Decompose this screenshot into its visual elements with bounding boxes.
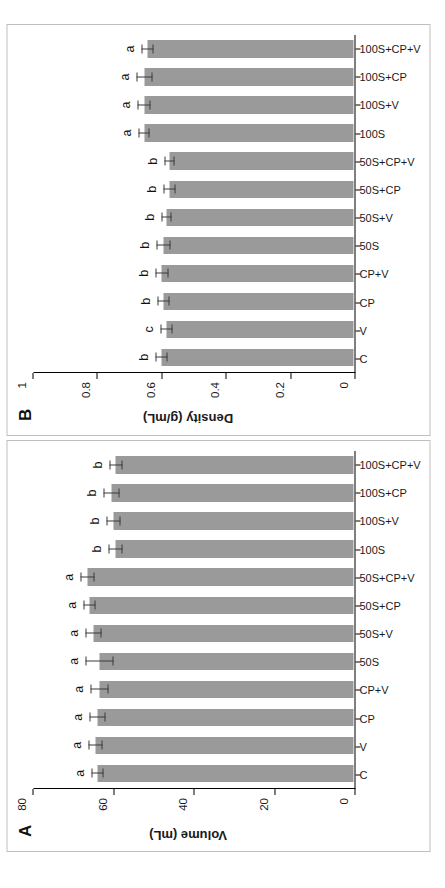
- significance-letter: a: [118, 102, 132, 109]
- significance-letter: a: [71, 686, 85, 693]
- significance-letter: a: [66, 630, 80, 637]
- bar-slot: a: [33, 731, 353, 759]
- category-label: 100S: [359, 128, 385, 140]
- error-bar: [90, 689, 108, 690]
- bar-slot: b: [33, 451, 353, 479]
- error-bar: [156, 245, 170, 246]
- axis-tick: [193, 789, 194, 795]
- error-bar: [103, 493, 119, 494]
- error-bar: [85, 661, 113, 662]
- significance-letter: b: [136, 354, 150, 361]
- category-label: 50S+V: [359, 628, 392, 640]
- category-label: CP+V: [359, 268, 388, 280]
- category-label: 50S+CP+V: [359, 156, 414, 168]
- axis-tick: [161, 373, 162, 379]
- category-tick: 50S+CP+V: [355, 148, 429, 176]
- category-label: C: [359, 769, 367, 781]
- axis-tick-label: 0.6: [144, 382, 156, 398]
- bar-slot: c: [33, 315, 353, 343]
- category-label: 50S: [359, 240, 379, 252]
- error-bar: [138, 133, 150, 134]
- bar-slot: b: [33, 507, 353, 535]
- bar: [115, 456, 353, 473]
- significance-letter: a: [69, 742, 83, 749]
- axis-tick: [113, 789, 114, 795]
- significance-letter: b: [142, 214, 156, 221]
- category-label: CP: [359, 297, 374, 309]
- significance-letter: a: [117, 74, 131, 81]
- category-label: V: [359, 325, 366, 337]
- bar: [99, 653, 353, 670]
- bar-slot: b: [33, 147, 353, 175]
- bar: [169, 181, 353, 198]
- category-label: 50S+CP: [359, 184, 400, 196]
- category-tick: 50S+CP: [355, 176, 429, 204]
- category-label: 100S+CP: [359, 487, 406, 499]
- error-bar: [88, 745, 102, 746]
- bar-slot: a: [33, 591, 353, 619]
- significance-letter: b: [84, 490, 98, 497]
- significance-letter: c: [141, 326, 155, 332]
- bar: [163, 293, 354, 310]
- significance-letter: b: [136, 270, 150, 277]
- panel-a-label: A: [15, 824, 35, 837]
- figure-inner: A Volume (mL) 020406080 aaaaaaaabbbb CVC…: [0, 0, 445, 888]
- significance-letter: a: [119, 130, 133, 137]
- axis-tick-label: 60: [96, 798, 108, 811]
- bar: [147, 40, 354, 57]
- panel-b-label: B: [15, 408, 35, 421]
- category-tick: 100S: [355, 119, 429, 147]
- significance-letter: b: [145, 158, 159, 165]
- bar: [111, 484, 353, 501]
- axis-tick: [32, 373, 33, 379]
- category-label: 50S+CP+V: [359, 572, 414, 584]
- error-bar: [136, 77, 152, 78]
- axis-tick: [354, 789, 355, 795]
- error-bar: [161, 217, 171, 218]
- category-tick: 100S+CP+V: [355, 35, 429, 63]
- bar: [115, 540, 353, 557]
- category-tick: 100S+CP: [355, 63, 429, 91]
- category-label: 100S+CP+V: [359, 459, 420, 471]
- error-bar: [157, 301, 169, 302]
- error-bar: [141, 49, 153, 50]
- category-tick: 100S+CP: [355, 479, 429, 507]
- bar-slot: b: [33, 231, 353, 259]
- axis-tick: [225, 373, 226, 379]
- bar: [87, 568, 353, 585]
- error-bar: [163, 189, 175, 190]
- panel-a-axis-title: Volume (mL): [148, 828, 226, 843]
- axis-tick-label: 20: [257, 798, 269, 811]
- significance-letter: b: [89, 546, 103, 553]
- bar: [89, 597, 353, 614]
- panel-b-category-labels: CVCPCP+V50S50S+V50S+CP50S+CP+V100S100S+V…: [355, 35, 429, 373]
- panel-a: A Volume (mL) 020406080 aaaaaaaabbbb CVC…: [6, 440, 430, 852]
- bar-slot: a: [33, 563, 353, 591]
- panel-a-bar-group: aaaaaaaabbbb: [33, 451, 353, 787]
- panel-b: B Density (g/mL) 00.20.40.60.81 bcbbbbbb…: [6, 24, 430, 436]
- axis-tick-label: 0.2: [273, 382, 285, 398]
- category-tick: C: [355, 345, 429, 373]
- category-tick: V: [355, 317, 429, 345]
- bar-slot: b: [33, 535, 353, 563]
- bar-slot: b: [33, 175, 353, 203]
- category-label: 100S: [359, 544, 385, 556]
- significance-letter: a: [70, 714, 84, 721]
- axis-tick-label: 80: [15, 798, 27, 811]
- bar: [97, 709, 353, 726]
- category-label: 100S+CP+V: [359, 43, 420, 55]
- error-bar: [106, 521, 120, 522]
- error-bar: [137, 105, 150, 106]
- category-tick: CP: [355, 288, 429, 316]
- bar: [113, 512, 353, 529]
- bar-slot: a: [33, 647, 353, 675]
- category-label: CP: [359, 713, 374, 725]
- axis-tick-label: 1: [15, 382, 27, 388]
- significance-letter: a: [122, 46, 136, 53]
- error-bar: [109, 465, 122, 466]
- category-label: CP+V: [359, 684, 388, 696]
- rotated-figure-group: A Volume (mL) 020406080 aaaaaaaabbbb CVC…: [0, 0, 445, 888]
- category-tick: 100S+V: [355, 91, 429, 119]
- bar-slot: a: [33, 91, 353, 119]
- bar: [161, 265, 353, 282]
